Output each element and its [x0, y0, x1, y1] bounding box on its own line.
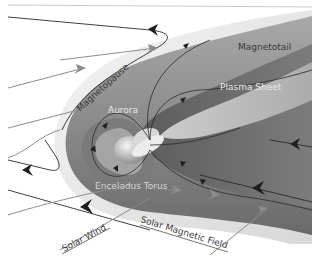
- label-magnetotail: Magnetotail: [238, 42, 291, 52]
- label-solar-wind: Solar Wind: [60, 222, 107, 254]
- label-aurora: Aurora: [108, 105, 138, 115]
- magnetosphere-diagram: Magnetotail Magnetopause Aurora Plasma S…: [0, 0, 318, 265]
- label-enceladus-torus: Enceladus Torus: [95, 181, 168, 191]
- label-plasma-sheet: Plasma Sheet: [220, 82, 282, 92]
- frame-line: [8, 5, 312, 7]
